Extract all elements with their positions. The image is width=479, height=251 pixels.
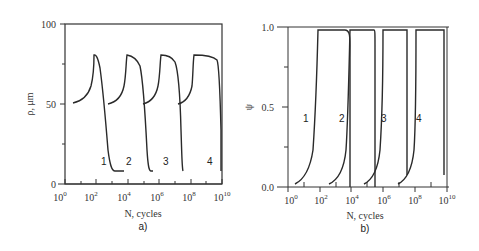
curve-label-a-1: 1 [101, 156, 107, 167]
xlabel-a: N, cycles [124, 208, 161, 219]
panel-a: 100 50 0 100 102 104 106 108 1010 N, cyc… [24, 19, 231, 232]
xtick-labels-a: 100 102 104 106 108 1010 [53, 190, 231, 203]
svg-text:108: 108 [182, 190, 196, 203]
curve-label-a-4: 4 [207, 156, 213, 167]
svg-text:1010: 1010 [214, 190, 232, 203]
curve-a-2 [108, 55, 153, 171]
ytick-label-a-0: 0 [51, 179, 56, 190]
ytick-label-a-100: 100 [41, 19, 56, 30]
ytick-label-b-0: 0.0 [262, 182, 275, 193]
svg-text:106: 106 [377, 193, 391, 206]
ytick-label-b-05: 0.5 [262, 102, 275, 113]
svg-text:102: 102 [84, 190, 98, 203]
svg-text:104: 104 [345, 193, 359, 206]
svg-text:100: 100 [53, 190, 67, 203]
caption-b: b) [361, 223, 370, 234]
curve-label-b-4: 4 [416, 113, 422, 124]
curve-a-1 [73, 55, 124, 171]
svg-text:108: 108 [408, 193, 422, 206]
figure: 100 50 0 100 102 104 106 108 1010 N, cyc… [0, 0, 479, 251]
curve-label-b-3: 3 [381, 113, 387, 124]
xlabel-b: N, cycles [346, 210, 383, 221]
xticks-a [65, 179, 222, 184]
curve-label-a-2: 2 [126, 156, 132, 167]
curve-b-4 [398, 30, 444, 184]
ylabel-a: ρ, μm [24, 92, 35, 115]
curve-a-4 [178, 55, 221, 171]
ytick-label-a-50: 50 [46, 99, 56, 110]
ylabel-b: ψ [243, 103, 254, 110]
curve-b-3 [364, 30, 407, 184]
panel-b: 1.0 0.5 0.0 ψ 100 102 104 106 108 1010 N… [243, 22, 456, 234]
curve-label-b-2: 2 [339, 113, 345, 124]
curve-b-2 [329, 30, 375, 187]
xtick-labels-b: 100 102 104 106 108 1010 [284, 193, 456, 206]
curve-label-a-3: 3 [163, 156, 169, 167]
svg-text:104: 104 [117, 190, 131, 203]
svg-text:1010: 1010 [439, 193, 457, 206]
svg-text:102: 102 [314, 193, 328, 206]
ytick-label-b-1: 1.0 [262, 22, 275, 33]
svg-text:100: 100 [284, 193, 298, 206]
curve-b-1 [295, 30, 350, 187]
caption-a: a) [139, 221, 148, 232]
curve-a-3 [143, 55, 183, 171]
curve-label-b-1: 1 [303, 113, 309, 124]
svg-text:106: 106 [150, 190, 164, 203]
